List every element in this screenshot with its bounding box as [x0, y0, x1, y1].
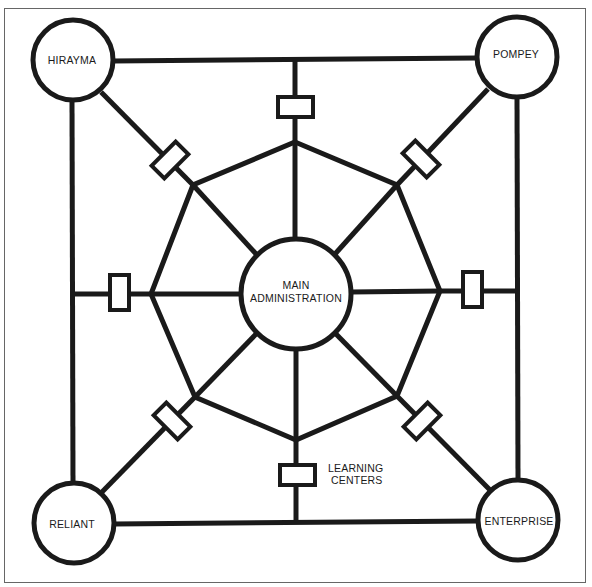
spoke-enterprise: [397, 396, 490, 490]
edge-pompey-enterprise: [517, 97, 518, 480]
inner-spoke-ul: [193, 185, 257, 255]
relay-box-top: [278, 97, 313, 117]
inner-spoke-ll: [195, 333, 257, 397]
spoke-hirayma: [101, 92, 193, 185]
spoke-pompey: [397, 89, 488, 185]
label-main-line2: ADMINISTRATION: [250, 292, 342, 304]
network-diagram: HIRAYMA POMPEY RELIANT ENTERPRISE MAIN A…: [0, 0, 592, 587]
inner-spoke-ur: [335, 185, 397, 254]
label-learning-centers-line1: LEARNING: [328, 462, 383, 474]
label-main-line1: MAIN: [282, 279, 309, 291]
label-reliant: RELIANT: [49, 518, 95, 530]
edge-hirayma-reliant: [72, 100, 73, 483]
relay-box-right: [463, 272, 482, 307]
label-learning-centers-line2: CENTERS: [331, 474, 383, 486]
relay-box-left: [110, 275, 129, 310]
label-hirayma: HIRAYMA: [48, 54, 96, 66]
relay-box-bottom: [280, 465, 315, 485]
label-enterprise: ENTERPRISE: [484, 515, 553, 527]
inner-spoke-lr: [335, 333, 397, 396]
inner-spoke-right: [351, 291, 440, 292]
spoke-reliant: [102, 397, 195, 492]
label-pompey: POMPEY: [493, 48, 539, 60]
